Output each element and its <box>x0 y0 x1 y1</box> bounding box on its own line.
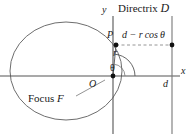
origin-label: O <box>89 79 96 89</box>
directrix-label: Directrix D <box>118 2 169 14</box>
origin-focus-marker <box>111 74 116 79</box>
conic-polar-diagram: Directrix D y x P d − r cos θ r θ O Focu… <box>0 0 195 134</box>
point-p-label: P <box>107 30 113 40</box>
focus-label: Focus F <box>28 93 64 104</box>
directrix-distance-label: d <box>163 79 168 89</box>
angle-theta-label: θ <box>110 63 115 73</box>
directrix-symbol: D <box>160 1 169 15</box>
x-axis-label: x <box>181 66 185 76</box>
directrix-foot-marker <box>170 43 175 48</box>
directrix-label-text: Directrix <box>118 2 158 14</box>
diagram-canvas <box>0 0 195 134</box>
y-axis-label: y <box>102 5 106 15</box>
focus-label-text: Focus <box>28 92 54 104</box>
distance-expression-label: d − r cos θ <box>122 30 165 40</box>
focus-symbol: F <box>57 92 64 104</box>
ellipse-curve <box>10 22 122 120</box>
radius-label: r <box>113 48 117 58</box>
angle-arc-inner <box>114 64 125 76</box>
